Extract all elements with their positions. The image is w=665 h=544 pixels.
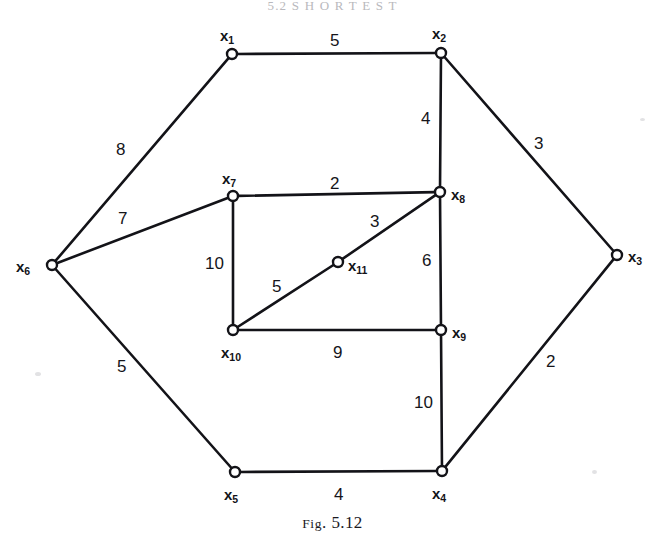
node-label-x1: x1 xyxy=(220,28,234,43)
graph-edge-x1-x2 xyxy=(237,53,436,54)
graph-edge-x8-x9 xyxy=(440,197,441,325)
node-label-x9: x9 xyxy=(452,325,466,340)
graph-edge-x2-x8 xyxy=(440,58,441,187)
node-label-x10: x10 xyxy=(221,345,241,360)
edge-weight-x1-x6: 8 xyxy=(116,141,125,158)
graph-edge-x8-x11 xyxy=(342,195,436,259)
graph-edge-x4-x9 xyxy=(441,335,442,466)
graph-edge-x10-x11 xyxy=(237,265,334,328)
edge-weight-x9-x10: 9 xyxy=(333,344,342,361)
graph-node-x6 xyxy=(47,260,57,270)
node-label-x3: x3 xyxy=(628,249,642,264)
graph-edge-x3-x4 xyxy=(445,259,614,467)
edge-weight-x4-x9: 10 xyxy=(414,394,433,411)
figure-caption-prefix: Fig xyxy=(302,516,322,531)
figure-caption: Fig. 5.12 xyxy=(0,513,665,533)
graph-edge-x4-x5 xyxy=(240,471,437,472)
edge-weight-x6-x7: 7 xyxy=(118,210,127,227)
graph-node-x9 xyxy=(436,325,446,335)
edge-weight-x3-x4: 2 xyxy=(546,353,555,370)
edge-weight-x1-x2: 5 xyxy=(330,32,339,49)
edge-weight-x7-x8: 2 xyxy=(330,175,339,192)
figure-page: 5.2 S H O R T E S T 58342410572106359x1x… xyxy=(0,0,665,544)
edge-weight-x5-x6: 5 xyxy=(117,358,126,375)
node-label-x6: x6 xyxy=(16,259,30,274)
edge-weight-x10-x11: 5 xyxy=(272,278,281,295)
edge-weight-x4-x5: 4 xyxy=(334,486,343,503)
graph-edge-x2-x3 xyxy=(444,57,613,251)
node-label-x4: x4 xyxy=(432,486,446,501)
graph-node-x1 xyxy=(227,49,237,59)
graph-edge-x5-x6 xyxy=(55,269,231,469)
graph-node-x7 xyxy=(228,191,238,201)
graph-node-x2 xyxy=(436,48,446,58)
graph-node-x3 xyxy=(612,250,622,260)
edge-weight-x8-x11: 3 xyxy=(370,213,379,230)
edge-weight-x7-x10: 10 xyxy=(205,255,224,272)
edge-weight-x8-x9: 6 xyxy=(422,252,431,269)
paper-speck xyxy=(640,118,645,121)
graph-node-x11 xyxy=(333,257,343,267)
figure-caption-rest: . 5.12 xyxy=(322,513,363,532)
nodes-layer xyxy=(47,48,622,477)
graph-diagram xyxy=(0,0,665,544)
edge-weight-x2-x3: 3 xyxy=(534,135,543,152)
paper-speck xyxy=(35,372,41,376)
graph-node-x10 xyxy=(228,325,238,335)
node-label-x8: x8 xyxy=(451,187,465,202)
node-label-x2: x2 xyxy=(432,26,446,41)
node-label-x5: x5 xyxy=(224,487,238,502)
graph-node-x5 xyxy=(230,467,240,477)
graph-node-x4 xyxy=(437,466,447,476)
graph-node-x8 xyxy=(435,187,445,197)
node-label-x7: x7 xyxy=(222,171,236,186)
edge-weight-x2-x8: 4 xyxy=(421,110,430,127)
node-label-x11: x11 xyxy=(348,258,367,273)
paper-speck xyxy=(592,470,597,474)
